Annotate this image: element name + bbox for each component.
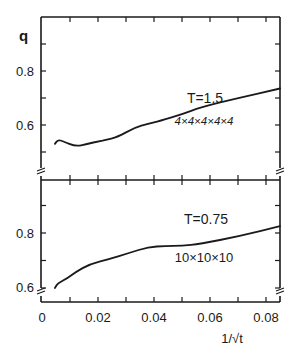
x-axis-title: 1/√t: [221, 331, 243, 346]
bottom-temperature-label: T=0.75: [184, 211, 228, 227]
x-label-0.02: 0.02: [85, 310, 110, 325]
curve-top: [55, 89, 280, 146]
chart: q 0.8 0.6 0.8 0.6 0 0.02 0.04 0.06 0.08 …: [0, 0, 293, 351]
top-lattice-label: 4×4×4×4×4: [175, 115, 234, 127]
x-label-0.04: 0.04: [141, 310, 166, 325]
curve-bottom: [55, 226, 280, 288]
x-label-0.06: 0.06: [197, 310, 222, 325]
bottom-lattice-label: 10×10×10: [175, 250, 234, 265]
axis-break-marks: [37, 168, 284, 294]
top-y-label-0.6: 0.6: [16, 118, 34, 133]
panel-divider: [41, 176, 280, 180]
bottom-y-label-0.6: 0.6: [16, 280, 34, 295]
x-label-0: 0: [38, 310, 45, 325]
x-label-0.08: 0.08: [253, 310, 278, 325]
top-temperature-label: T=1.5: [187, 90, 223, 106]
bottom-y-label-0.8: 0.8: [16, 226, 34, 241]
top-y-label-0.8: 0.8: [16, 64, 34, 79]
data-curves: [55, 89, 280, 289]
bottom-panel-frame: [41, 180, 280, 302]
tick-marks: [41, 17, 280, 302]
y-axis-symbol: q: [19, 27, 28, 44]
